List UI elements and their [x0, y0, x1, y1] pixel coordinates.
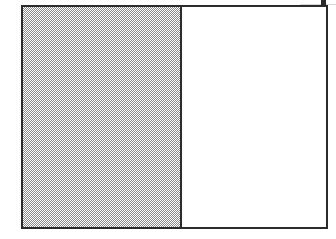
blank-panel — [181, 7, 326, 227]
shaded-panel — [23, 7, 181, 227]
figure-frame — [21, 5, 328, 229]
panel-divider — [180, 7, 182, 227]
figure-canvas — [0, 0, 336, 239]
